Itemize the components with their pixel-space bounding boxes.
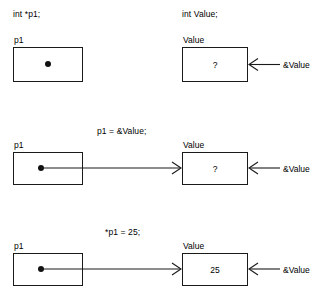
assign-address-statement-text: p1 = &Value; (97, 126, 146, 136)
value-box-content: 25 (183, 265, 247, 275)
value-box: 25 (182, 253, 248, 286)
value-box: ? (182, 47, 248, 82)
pointer-declaration-text: int *p1; (13, 9, 40, 19)
pointer-diagram: int *p1; int Value; p1 Value ? &Value p1… (0, 0, 320, 307)
pointer-box (13, 152, 83, 185)
value-box-label: Value (183, 140, 204, 150)
value-box-label: Value (183, 241, 204, 251)
address-of-label: &Value (283, 265, 310, 275)
value-box-content: ? (183, 60, 247, 70)
pointer-dot-icon (38, 266, 44, 272)
value-declaration-text: int Value; (182, 9, 218, 19)
value-box-label: Value (183, 35, 204, 45)
pointer-dot-icon (38, 165, 44, 171)
value-box-content: ? (183, 164, 247, 174)
address-of-label: &Value (283, 60, 310, 70)
value-box: ? (182, 152, 248, 185)
pointer-box-label: p1 (14, 140, 23, 150)
diagram-row-assign-address: p1 = &Value; p1 Value ? &Value (0, 100, 320, 205)
dereference-assign-statement-text: *p1 = 25; (105, 227, 140, 237)
pointer-box-label: p1 (14, 35, 23, 45)
pointer-dot-icon (45, 61, 51, 67)
diagram-row-dereference-assign: *p1 = 25; p1 Value 25 &Value (0, 205, 320, 307)
diagram-row-declaration: int *p1; int Value; p1 Value ? &Value (0, 0, 320, 100)
pointer-box (13, 253, 83, 286)
address-of-label: &Value (283, 164, 310, 174)
pointer-box-label: p1 (14, 241, 23, 251)
